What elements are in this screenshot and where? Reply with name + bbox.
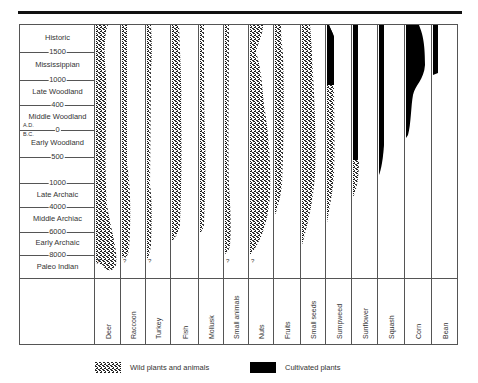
uncertain-marker: ?: [97, 258, 100, 264]
column-sumpweed: Sumpweed: [325, 25, 351, 345]
column-sunflower: Sunflower: [351, 25, 377, 345]
uncertain-marker: ?: [251, 258, 254, 264]
time-tick: 400: [20, 101, 95, 109]
time-tick: 8000: [20, 251, 95, 259]
chart-frame: Historic 1500 Mississippian 1000 Late Wo…: [19, 24, 458, 345]
bc-label: B.C.: [23, 131, 34, 137]
category-label: Fish: [182, 326, 189, 339]
column-fruits: Fruits: [273, 25, 300, 345]
column-corn: Corn: [404, 25, 431, 345]
period-label: Late Archaic: [20, 190, 95, 199]
column-fish: Fish: [170, 25, 198, 345]
wild-band: [96, 25, 116, 270]
category-label: Turkey: [155, 318, 162, 339]
category-label: Squash: [388, 315, 395, 339]
period-axis: Historic 1500 Mississippian 1000 Late Wo…: [20, 25, 95, 278]
category-label: Bean: [442, 323, 449, 339]
legend-item-wild: Wild plants and animals: [95, 360, 209, 374]
time-tick: 500: [20, 153, 95, 161]
column-bean: Bean: [431, 25, 458, 345]
legend-label: Wild plants and animals: [130, 363, 209, 372]
legend-item-cultivated: Cultivated plants: [250, 360, 340, 374]
legend-label: Cultivated plants: [285, 363, 340, 372]
category-label: Sumpweed: [336, 304, 343, 339]
category-label: Corn: [415, 324, 422, 339]
category-label: Raccoon: [130, 311, 137, 339]
time-tick: 1000: [20, 179, 95, 187]
category-label: Deer: [105, 324, 112, 339]
category-label: Fruits: [284, 322, 291, 340]
time-tick: 1500: [20, 48, 95, 56]
category-label: Small animals: [233, 295, 240, 339]
page-top-rule: [18, 11, 462, 14]
column-mollusk: Mollusk: [198, 25, 223, 345]
column-small-animals: ? Small animals: [223, 25, 248, 345]
category-label: Sunflower: [362, 308, 369, 339]
uncertain-marker: ?: [148, 258, 151, 264]
column-nuts: ? Nuts: [248, 25, 273, 345]
period-label: Paleo Indian: [20, 262, 95, 271]
period-label: Middle Archiac: [20, 214, 95, 223]
solid-swatch-icon: [250, 362, 276, 373]
period-label: Historic: [20, 33, 95, 42]
category-label: Mollusk: [208, 315, 215, 339]
time-tick: 4000: [20, 203, 95, 211]
period-label: Early Woodland: [20, 138, 95, 147]
uncertain-marker: ?: [226, 258, 229, 264]
column-raccoon: ? Raccoon: [120, 25, 145, 345]
period-label: Late Woodland: [20, 87, 95, 96]
uncertain-marker: ?: [123, 258, 126, 264]
period-label: Middle Woodland: [20, 112, 95, 121]
time-tick: 1000: [20, 76, 95, 84]
period-label: Mississippian: [20, 60, 95, 69]
category-label: Small seeds: [310, 301, 317, 339]
time-tick: 6000: [20, 228, 95, 236]
column-small-seeds: Small seeds: [300, 25, 325, 345]
column-squash: Squash: [377, 25, 404, 345]
category-label: Nuts: [258, 325, 265, 339]
stipple-swatch-icon: [95, 362, 121, 373]
column-deer: ? Deer: [94, 25, 120, 345]
period-label: Early Archaic: [20, 238, 95, 247]
column-turkey: ? Turkey: [145, 25, 170, 345]
